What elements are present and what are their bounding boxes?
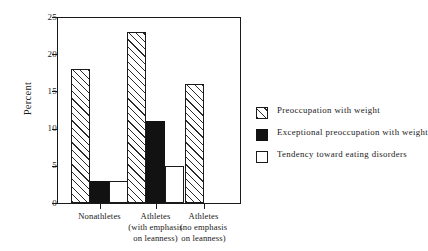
bar (165, 166, 184, 203)
x-axis-group-label-line: Athletes (159, 211, 249, 222)
legend-label: Exceptional preoccupation with weight (277, 127, 428, 137)
bars-layer (57, 17, 241, 203)
legend-label: Tendency toward eating disorders (277, 149, 407, 159)
bar (127, 32, 146, 203)
bar (109, 181, 128, 203)
x-axis-tick-mark (156, 203, 157, 209)
x-axis-tick-mark (204, 203, 205, 209)
legend-swatch-solid (256, 129, 268, 141)
bar (71, 69, 90, 203)
bar (185, 84, 204, 203)
x-axis-tick-mark (100, 203, 101, 209)
y-axis-tick-mark (52, 203, 57, 204)
bar (90, 181, 109, 203)
bar (146, 121, 165, 203)
x-axis-group-label: Athletes(no emphasison leanness) (159, 211, 249, 245)
legend-swatch-hatched (256, 107, 268, 119)
legend-swatch-open (256, 151, 268, 163)
x-axis-line (57, 203, 241, 204)
x-axis-group-label-line: on leanness) (159, 233, 249, 244)
legend-label: Preoccupation with weight (277, 105, 380, 115)
x-axis-group-label-line: (no emphasis (159, 222, 249, 233)
